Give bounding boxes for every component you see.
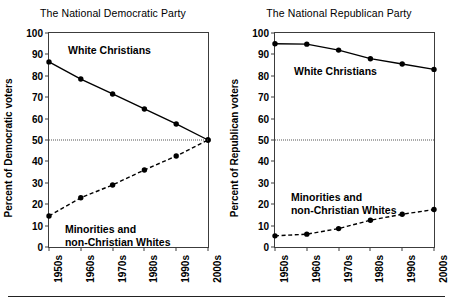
x-axis-tick-label: 1950s	[279, 255, 307, 266]
y-axis-tick-mark	[271, 54, 275, 55]
x-axis-tick-label-text: 1960s	[311, 255, 322, 283]
y-axis-tick-mark	[271, 97, 275, 98]
x-axis-tick-label-text: 2000s	[212, 255, 223, 283]
y-axis-tick-mark	[45, 225, 49, 226]
x-axis-tick-mark	[402, 247, 403, 251]
data-point-marker	[431, 67, 436, 72]
x-axis-tick-label-text: 1990s	[180, 255, 191, 283]
x-axis-tick-label: 1970s	[343, 255, 371, 266]
y-axis-tick-mark	[271, 161, 275, 162]
chart-title-democratic: The National Democratic Party	[0, 7, 226, 19]
data-point-marker	[368, 56, 373, 61]
series-annotation-0: White Christians	[294, 65, 377, 78]
data-point-marker	[272, 41, 277, 46]
x-axis-tick-label: 1960s	[311, 255, 339, 266]
x-axis-tick-mark	[434, 247, 435, 251]
x-axis-tick-label: 1990s	[406, 255, 434, 266]
reference-line-50	[275, 140, 434, 141]
plot-area-democratic: 01020304050607080901001950s1960s1970s198…	[48, 32, 209, 248]
data-point-marker	[400, 61, 405, 66]
y-axis-tick-mark	[45, 54, 49, 55]
x-axis-tick-label-text: 1990s	[406, 255, 417, 283]
data-point-marker	[174, 121, 179, 126]
data-point-marker	[368, 218, 373, 223]
x-axis-tick-label-text: 1950s	[279, 255, 290, 283]
series-annotation-line2: non-Christian Whites	[291, 204, 397, 217]
chart-panel-democratic: The National Democratic Party Percent of…	[0, 0, 226, 305]
chart-title-republican: The National Republican Party	[226, 7, 452, 19]
plot-area-republican: 01020304050607080901001950s1960s1970s198…	[274, 32, 435, 248]
series-annotation-1: Minorities andnon-Christian Whites	[65, 223, 171, 249]
y-axis-tick-mark	[45, 204, 49, 205]
x-axis-tick-label: 1990s	[180, 255, 208, 266]
x-axis-tick-label-text: 2000s	[438, 255, 449, 283]
data-point-marker	[336, 47, 341, 52]
y-axis-tick-mark	[271, 225, 275, 226]
y-axis-tick-mark	[271, 118, 275, 119]
data-point-marker	[304, 231, 309, 236]
data-point-marker	[336, 226, 341, 231]
x-axis-tick-mark	[370, 247, 371, 251]
series-annotation-line2: non-Christian Whites	[65, 236, 171, 249]
data-point-marker	[78, 195, 83, 200]
y-axis-tick-mark	[271, 182, 275, 183]
y-axis-tick-mark	[45, 182, 49, 183]
chart-panel-republican: The National Republican Party Percent of…	[226, 0, 452, 305]
data-point-marker	[78, 76, 83, 81]
x-axis-tick-label: 1980s	[374, 255, 402, 266]
figure-root: The National Democratic Party Percent of…	[0, 0, 453, 305]
series-line-0	[49, 62, 208, 140]
series-line-1	[49, 140, 208, 216]
data-point-marker	[431, 207, 436, 212]
x-axis-tick-label-text: 1960s	[85, 255, 96, 283]
x-axis-tick-label: 1960s	[85, 255, 113, 266]
y-axis-tick-mark	[45, 118, 49, 119]
y-axis-tick-mark	[45, 161, 49, 162]
data-point-marker	[304, 41, 309, 46]
x-axis-tick-mark	[275, 247, 276, 251]
data-point-marker	[110, 182, 115, 187]
series-annotation-1: Minorities andnon-Christian Whites	[291, 191, 397, 217]
series-annotation-line1: Minorities and	[291, 191, 397, 204]
y-axis-label-republican: Percent of Republican voters	[225, 0, 243, 305]
x-axis-tick-mark	[208, 247, 209, 251]
x-axis-tick-label-text: 1970s	[343, 255, 354, 283]
x-axis-tick-label: 1950s	[53, 255, 81, 266]
x-axis-tick-label: 2000s	[438, 255, 453, 266]
reference-line-50	[49, 140, 208, 141]
x-axis-tick-label-text: 1980s	[148, 255, 159, 283]
y-axis-label-democratic: Percent of Democratic voters	[0, 0, 17, 305]
x-axis-tick-mark	[306, 247, 307, 251]
data-point-marker	[110, 91, 115, 96]
x-axis-tick-label-text: 1980s	[374, 255, 385, 283]
series-annotation-0: White Christians	[68, 44, 151, 57]
data-point-marker	[272, 233, 277, 238]
y-axis-label-text: Percent of Democratic voters	[3, 79, 14, 218]
y-axis-tick-mark	[45, 75, 49, 76]
x-axis-tick-label: 1970s	[117, 255, 145, 266]
data-point-marker	[142, 167, 147, 172]
x-axis-tick-mark	[176, 247, 177, 251]
data-point-marker	[142, 106, 147, 111]
data-point-marker	[46, 59, 51, 64]
data-point-marker	[174, 153, 179, 158]
y-axis-tick-mark	[271, 75, 275, 76]
x-axis-tick-label-text: 1950s	[53, 255, 64, 283]
x-axis-tick-mark	[49, 247, 50, 251]
series-annotation-line1: Minorities and	[65, 223, 171, 236]
x-axis-tick-label: 1980s	[148, 255, 176, 266]
y-axis-label-text: Percent of Republican voters	[229, 79, 240, 217]
x-axis-tick-label-text: 1970s	[117, 255, 128, 283]
data-point-marker	[400, 212, 405, 217]
footer-rule	[8, 296, 445, 297]
y-axis-tick-mark	[45, 97, 49, 98]
y-axis-tick-mark	[271, 33, 275, 34]
data-point-marker	[46, 213, 51, 218]
y-axis-tick-mark	[271, 204, 275, 205]
y-axis-tick-mark	[45, 33, 49, 34]
x-axis-tick-mark	[338, 247, 339, 251]
